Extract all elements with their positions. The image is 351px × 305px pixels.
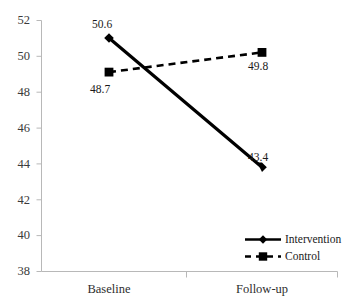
x-tick-label-baseline: Baseline	[69, 283, 149, 296]
legend-label-control: Control	[285, 251, 320, 263]
y-tick-label-38: 38	[6, 265, 30, 278]
legend-marker-intervention	[245, 235, 281, 243]
x-axis-ticks	[187, 272, 338, 278]
data-label-intervention-baseline: 50.6	[92, 19, 112, 31]
y-tick-label-44: 44	[6, 158, 30, 171]
x-tick-label-followup: Follow-up	[222, 283, 302, 296]
y-tick-label-52: 52	[6, 14, 30, 27]
y-tick-label-40: 40	[6, 229, 30, 242]
y-tick-label-46: 46	[6, 122, 30, 135]
series-line-intervention	[109, 38, 262, 167]
y-tick-label-50: 50	[6, 50, 30, 63]
y-tick-label-42: 42	[6, 194, 30, 207]
data-label-control-baseline: 48.7	[90, 84, 110, 96]
data-label-intervention-followup: 43.4	[248, 152, 268, 164]
legend-marker-control	[245, 252, 281, 260]
y-tick-label-48: 48	[6, 86, 30, 99]
data-label-control-followup: 49.8	[248, 61, 268, 73]
line-chart: 52 50 48 46 44 42 40 38 Baseline Follow-…	[0, 0, 351, 305]
data-point-control-followup	[258, 48, 267, 57]
data-point-control-baseline	[105, 68, 114, 77]
y-axis-ticks	[37, 21, 42, 272]
legend-label-intervention: Intervention	[285, 234, 341, 246]
data-point-intervention-followup	[257, 162, 267, 172]
